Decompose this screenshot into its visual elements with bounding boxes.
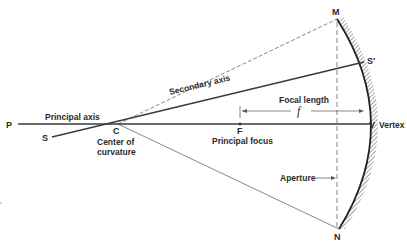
center-label-line1: Center of (97, 137, 134, 147)
point-c-label: C (113, 126, 120, 136)
focal-symbol: f (297, 104, 302, 118)
focal-length-label: Focal length (279, 95, 329, 105)
aperture-arrow-icon (331, 176, 336, 180)
point-n-label: N (334, 232, 341, 242)
principal-focus-label: Principal focus (212, 136, 273, 146)
point-p-label: P (6, 120, 12, 130)
point-s-label: S (42, 133, 48, 143)
aperture-label: Aperture (280, 173, 316, 183)
point-v-label: V (369, 120, 375, 130)
arrow-right-icon (359, 109, 364, 113)
principal-axis-label: Principal axis (45, 112, 100, 122)
stray-mark (0, 202, 2, 204)
concave-mirror-diagram: P Principal axis S C Center of curvature… (0, 0, 407, 244)
arrow-left-icon (242, 109, 247, 113)
secondary-axis-label: Secondary axis (168, 73, 231, 97)
point-f-label: F (237, 126, 243, 136)
center-label-line2: curvature (97, 147, 136, 157)
vertex-label: Vertex (379, 120, 405, 130)
radius-line-cm (118, 19, 337, 124)
point-m-label: M (332, 7, 340, 17)
point-s-prime-label: S′ (367, 56, 375, 66)
